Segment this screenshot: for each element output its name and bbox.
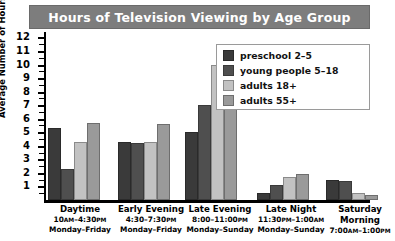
y-tick-major (38, 146, 45, 148)
y-tick-major (38, 173, 45, 175)
y-tick-label-10: 10 (14, 60, 30, 70)
bar (185, 132, 198, 200)
bar (296, 174, 309, 200)
legend-item[interactable]: adults 55+ (221, 93, 365, 108)
y-tick-minor (39, 98, 44, 99)
y-tick-major (38, 119, 45, 121)
bar-group-daytime (48, 32, 100, 200)
y-tick-minor (39, 44, 44, 45)
legend-swatch-icon (223, 65, 234, 76)
bar-group-early-evening (118, 32, 170, 200)
y-tick-minor (39, 166, 44, 167)
y-tick-label-5: 5 (14, 127, 30, 137)
y-tick-label-8: 8 (14, 87, 30, 97)
bar (352, 193, 365, 200)
y-tick-label-11: 11 (14, 46, 30, 56)
y-tick-minor (39, 112, 44, 113)
y-tick-label-4: 4 (14, 141, 30, 151)
chart-title: Hours of Television Viewing by Age Group (48, 10, 350, 25)
bar (365, 195, 378, 200)
chart-title-banner: Hours of Television Viewing by Age Group (29, 5, 370, 29)
legend-item-label: preschool 2–5 (240, 50, 312, 61)
y-tick-major (38, 65, 45, 67)
bar (157, 124, 170, 200)
x-category-name: Saturday (317, 204, 395, 215)
legend-item[interactable]: adults 18+ (221, 78, 365, 93)
bar (87, 123, 100, 200)
bar (131, 143, 144, 200)
y-tick-major (38, 159, 45, 161)
bar (144, 142, 157, 200)
x-axis-category-saturday-morning: SaturdayMorning7:00AM–1:00PM (317, 204, 395, 236)
bar (339, 181, 352, 200)
y-tick-label-3: 3 (14, 154, 30, 164)
legend-swatch-icon (223, 95, 234, 106)
legend-swatch-icon (223, 50, 234, 61)
y-tick-label-1: 1 (14, 181, 30, 191)
y-tick-label-9: 9 (14, 73, 30, 83)
bar (326, 180, 339, 200)
legend-swatch-icon (223, 80, 234, 91)
y-tick-major (38, 132, 45, 134)
bar (270, 185, 283, 200)
legend-item[interactable]: young people 5–18 (221, 63, 365, 78)
y-tick-label-6: 6 (14, 114, 30, 124)
bar (257, 193, 270, 200)
bar (74, 142, 87, 200)
x-axis-labels: Daytime10AM–4:30PMMonday–FridayEarly Eve… (45, 204, 370, 241)
y-tick-label-12: 12 (14, 32, 30, 42)
y-tick-major (38, 105, 45, 107)
x-category-time: 7:00AM–1:00PM (317, 226, 395, 236)
legend-item-label: adults 18+ (240, 80, 297, 91)
legend-item[interactable]: preschool 2–5 (221, 48, 365, 63)
x-category-name: Morning (317, 215, 395, 226)
legend-item-label: adults 55+ (240, 95, 297, 106)
y-tick-minor (39, 58, 44, 59)
y-tick-major (38, 92, 45, 94)
y-tick-major (38, 37, 45, 39)
y-tick-label-7: 7 (14, 100, 30, 110)
y-tick-minor (39, 85, 44, 86)
y-tick-minor (39, 125, 44, 126)
legend-item-label: young people 5–18 (240, 65, 338, 76)
y-tick-minor (39, 139, 44, 140)
bar (283, 177, 296, 200)
y-tick-minor (39, 193, 44, 194)
y-tick-major (38, 51, 45, 53)
y-tick-major (38, 186, 45, 188)
x-axis-baseline (44, 200, 370, 203)
bar (118, 142, 131, 200)
bar (48, 128, 61, 200)
y-tick-major (38, 78, 45, 80)
y-axis-label-text: Average Number of Hours Per Week (0, 0, 7, 118)
y-axis-ticks: 123456789101112 (12, 0, 30, 241)
y-tick-minor (39, 71, 44, 72)
y-tick-minor (39, 153, 44, 154)
bar (61, 169, 74, 200)
legend: preschool 2–5young people 5–18adults 18+… (216, 44, 370, 110)
y-tick-minor (39, 180, 44, 181)
bar (198, 105, 211, 200)
y-tick-label-2: 2 (14, 168, 30, 178)
